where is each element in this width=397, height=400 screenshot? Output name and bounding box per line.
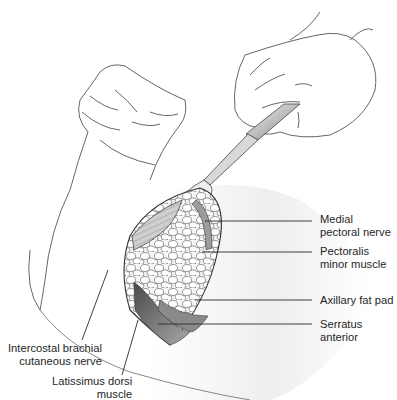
label-intercostal-brachial-cutaneous-nerve: Intercostal brachial cutaneous nerve: [8, 342, 102, 367]
leader-latissimus-dorsi: [122, 320, 138, 375]
label-serratus-anterior: Serratus anterior: [320, 318, 362, 343]
label-latissimus-dorsi-muscle: Latissimus dorsi muscle: [52, 375, 132, 400]
surgeon-hand: [234, 12, 375, 137]
label-pectoralis-minor-muscle: Pectoralis minor muscle: [320, 245, 387, 270]
label-axillary-fat-pad: Axillary fat pad: [320, 294, 393, 307]
leader-intercostal-brachial: [82, 270, 108, 340]
label-medial-pectoral-nerve: Medial pectoral nerve: [320, 213, 391, 238]
